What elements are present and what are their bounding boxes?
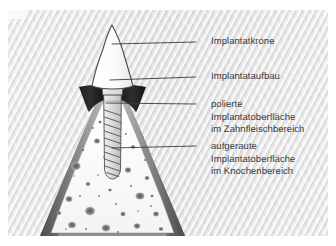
label-polierte-implantatoberflaeche: polierte Implantatoberfläche im Zahnflei… (211, 99, 304, 137)
leader-line-implantatkrone (112, 42, 196, 44)
label-implantataufbau: Implantataufbau (211, 71, 280, 84)
label-aufgeraute-implantatoberflaeche: aufgeraute Implantatoberfläche im Knoche… (211, 141, 295, 179)
label-implantatkrone: Implantatkrone (211, 36, 275, 49)
figure-container: Implantatkrone Implantataufbau polierte … (0, 0, 336, 246)
